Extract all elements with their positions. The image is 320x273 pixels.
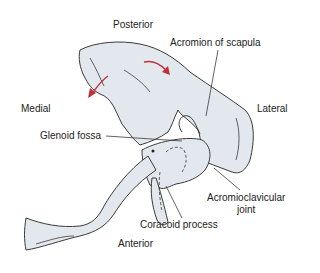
clavicle-shape	[25, 156, 157, 250]
label-medial: Medial	[21, 103, 50, 114]
label-ac-joint-2: joint	[237, 204, 255, 215]
label-anterior: Anterior	[118, 238, 153, 249]
label-acromion: Acromion of scapula	[170, 37, 261, 48]
label-coracoid: Coracoid process	[140, 219, 218, 230]
label-posterior: Posterior	[113, 19, 153, 30]
label-glenoid: Glenoid fossa	[40, 130, 101, 141]
label-ac-joint-1: Acromioclavicular	[207, 192, 285, 203]
glenoid-dot	[152, 150, 155, 153]
label-lateral: Lateral	[257, 103, 288, 114]
leader-coracoid	[166, 186, 182, 218]
